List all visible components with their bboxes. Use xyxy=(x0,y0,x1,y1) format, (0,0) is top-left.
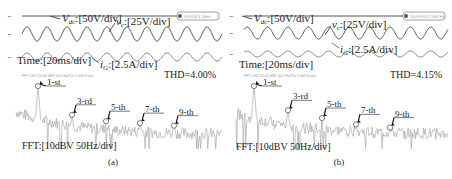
harmonic-marker-1-st xyxy=(35,83,40,88)
ig-arrow xyxy=(332,43,339,48)
channel-marker-1: ▪▪ xyxy=(230,14,233,19)
panel-a-svg: ΛΛΛΛΛ 1 1kHz▪▪▪▪▪▪Vdc:[50V/div]vc:[25V/d… xyxy=(0,0,226,179)
vc-arrow xyxy=(109,23,115,32)
harmonic-marker-7-th xyxy=(137,121,142,126)
harmonic-marker-1-st xyxy=(251,83,256,88)
harmonic-label-9-th: 9-th xyxy=(179,107,194,117)
channel-marker-2: ▪▪ xyxy=(8,32,11,37)
harmonic-label-1-st: 1-st xyxy=(47,77,61,87)
scope-badge-dot xyxy=(404,14,408,18)
harmonic-marker-7-th xyxy=(353,122,358,127)
harmonic-marker-9-th xyxy=(387,125,392,130)
harmonic-marker-3-rd xyxy=(69,112,74,117)
harmonic-arrowhead-5-th xyxy=(108,116,111,119)
harmonic-arrowhead-1-st xyxy=(40,81,43,84)
channel-marker-3: ▪▪ xyxy=(230,52,233,57)
panel-b-svg: ΛΛΛΛΛ 417.946 Hz▪▪▪▪▪▪Vdc:[50V/div]vc:[2… xyxy=(226,0,452,179)
harmonic-label-1-st: 1-st xyxy=(263,77,277,87)
time-label: Time:[20ms/div] xyxy=(239,58,313,70)
harmonic-arrowhead-1-st xyxy=(256,81,259,84)
vc-trace xyxy=(22,27,222,41)
harmonic-marker-3-rd xyxy=(285,108,290,113)
channel-marker-2: ▪▪ xyxy=(230,31,233,36)
fft-scale-label: FFT:[10dBV 50Hz/div] xyxy=(22,140,117,151)
harmonic-marker-5-th xyxy=(103,119,108,124)
harmonic-arrowhead-3-rd xyxy=(74,110,77,113)
vc-label: vc:[25V/div] xyxy=(116,15,170,29)
fft-scale-label: FFT:[10dBV 50Hz/div] xyxy=(236,141,331,152)
harmonic-label-7-th: 7-th xyxy=(145,104,160,114)
harmonic-label-9-th: 9-th xyxy=(395,109,410,119)
scope-badge-text: ΛΛΛΛΛ 1 1kHz xyxy=(184,14,211,19)
fft-header: FFT CH2 10.00 dBV 50.0 Hz/Div 5.000 Ksa/… xyxy=(244,74,316,78)
harmonic-arrowhead-7-th xyxy=(142,118,145,121)
time-label: Time:[20ms/div] xyxy=(17,54,91,66)
harmonic-marker-9-th xyxy=(171,123,176,128)
vdc-label: Vdc:[50V/div] xyxy=(62,12,122,26)
fft-spectrum xyxy=(236,87,448,149)
harmonic-label-3-rd: 3-rd xyxy=(293,91,308,101)
ig-label: iG:[2.5A/div] xyxy=(100,58,157,72)
scope-badge-text: ΛΛΛΛΛ 417.946 Hz xyxy=(410,14,445,19)
thd-value: THD=4.15% xyxy=(390,69,442,80)
harmonic-arrowhead-9-th xyxy=(176,121,179,124)
channel-marker-3: ▪▪ xyxy=(8,55,11,60)
harmonic-label-7-th: 7-th xyxy=(361,105,376,115)
harmonic-label-3-rd: 3-rd xyxy=(77,96,92,106)
vc-label: vc:[25V/div] xyxy=(332,18,386,32)
channel-marker-1: ▪▪ xyxy=(8,14,11,19)
ig-label: iG:[2.5A/div] xyxy=(340,43,397,57)
harmonic-label-5-th: 5-th xyxy=(111,102,126,112)
scope-badge-dot xyxy=(178,14,182,18)
panel-caption: (b) xyxy=(334,157,345,167)
vdc-label: Vdc:[50V/div] xyxy=(254,12,314,26)
panel-a: ΛΛΛΛΛ 1 1kHz▪▪▪▪▪▪Vdc:[50V/div]vc:[25V/d… xyxy=(0,0,226,179)
panel-b: ΛΛΛΛΛ 417.946 Hz▪▪▪▪▪▪Vdc:[50V/div]vc:[2… xyxy=(226,0,452,179)
harmonic-label-5-th: 5-th xyxy=(327,99,342,109)
panel-caption: (a) xyxy=(108,157,118,167)
thd-value: THD=4.00% xyxy=(164,69,216,80)
harmonic-marker-5-th xyxy=(319,115,324,120)
